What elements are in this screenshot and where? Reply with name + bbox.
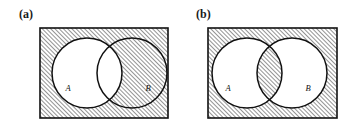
panel-b-venn-svg: A B <box>177 0 354 128</box>
panel-b-label-a: A <box>224 83 231 93</box>
panel-b-label-b: B <box>305 83 310 93</box>
panel-a: (a) <box>0 0 177 128</box>
panel-a-venn-svg: A B <box>0 0 177 128</box>
panel-a-label-a: A <box>64 83 71 93</box>
panel-a-label-b: B <box>145 83 150 93</box>
venn-diagram-figure: (a) <box>0 0 354 128</box>
panel-b: (b) <box>177 0 354 128</box>
